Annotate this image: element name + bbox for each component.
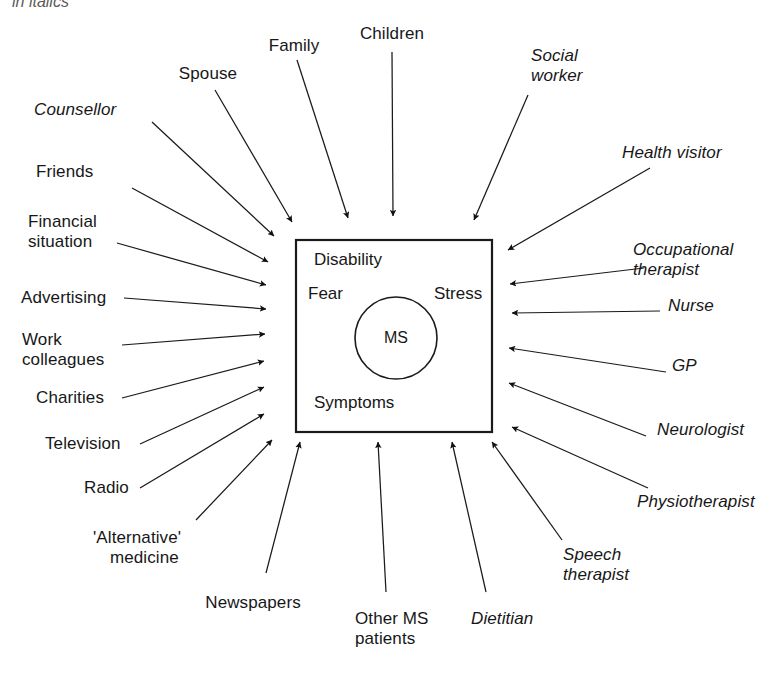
node-label-health-visitor: Health visitor <box>622 143 722 163</box>
arrow-friends <box>132 188 268 262</box>
arrow-spouse <box>215 90 292 222</box>
node-label-work-line2: colleagues <box>22 350 104 370</box>
node-label-spouse: Spouse <box>179 64 237 84</box>
arrow-social-worker <box>474 95 528 220</box>
node-label-social-worker-line2: worker <box>531 66 583 86</box>
arrow-other-ms-patients <box>378 442 386 592</box>
arrow-newspapers <box>266 442 300 573</box>
node-label-neurologist: Neurologist <box>657 420 744 440</box>
arrow-neurologist <box>509 383 646 436</box>
ms-circle-label: MS <box>384 329 408 347</box>
arrow-family <box>297 60 348 218</box>
box-label-fear: Fear <box>308 284 343 304</box>
node-label-financial-line1: Financial <box>28 212 97 232</box>
node-label-nurse: Nurse <box>668 296 714 316</box>
node-label-children: Children <box>360 24 424 44</box>
node-label-counsellor: Counsellor <box>34 100 116 120</box>
node-label-occupational-line2: therapist <box>633 260 699 280</box>
arrow-occupational-therapist <box>510 268 644 284</box>
node-label-other-ms-line1: Other MS <box>355 609 429 629</box>
node-label-charities: Charities <box>36 388 104 408</box>
node-label-alternative-line2: medicine <box>110 548 179 568</box>
node-label-dietitian: Dietitian <box>471 609 533 629</box>
arrow-nurse <box>512 311 660 313</box>
node-label-physiotherapist: Physiotherapist <box>637 492 755 512</box>
box-label-disability: Disability <box>314 250 382 270</box>
arrow-dietitian <box>452 442 486 592</box>
node-label-family: Family <box>269 36 320 56</box>
arrow-advertising <box>124 298 266 309</box>
node-label-newspapers: Newspapers <box>205 593 301 613</box>
node-label-alternative-line1: 'Alternative' <box>93 528 181 548</box>
node-label-other-ms-line2: patients <box>355 629 415 649</box>
node-label-financial-line2: situation <box>28 232 92 252</box>
node-label-speech-line1: Speech <box>563 545 621 565</box>
arrow-radio <box>140 414 264 488</box>
arrow-health-visitor <box>508 168 650 250</box>
arrow-work-colleagues <box>122 334 265 345</box>
arrow-speech-therapist <box>492 442 562 540</box>
node-label-radio: Radio <box>84 478 129 498</box>
arrow-gp <box>509 348 666 372</box>
node-label-social-worker-line1: Social <box>531 46 578 66</box>
arrow-counsellor <box>152 122 274 236</box>
node-label-gp: GP <box>672 356 697 376</box>
diagram-canvas: in italics <box>0 0 777 675</box>
arrow-television <box>140 387 264 444</box>
arrow-physiotherapist <box>512 427 648 488</box>
node-label-speech-line2: therapist <box>563 565 629 585</box>
node-label-advertising: Advertising <box>21 288 106 308</box>
arrow-charities <box>122 361 264 398</box>
node-label-television: Television <box>45 434 121 454</box>
box-label-symptoms: Symptoms <box>314 393 394 413</box>
node-label-work-line1: Work <box>22 330 62 350</box>
arrow-alternative-medicine <box>196 440 272 520</box>
box-label-stress: Stress <box>434 284 482 304</box>
arrow-children <box>392 52 393 216</box>
node-label-friends: Friends <box>36 162 93 182</box>
node-label-occupational-line1: Occupational <box>633 240 733 260</box>
